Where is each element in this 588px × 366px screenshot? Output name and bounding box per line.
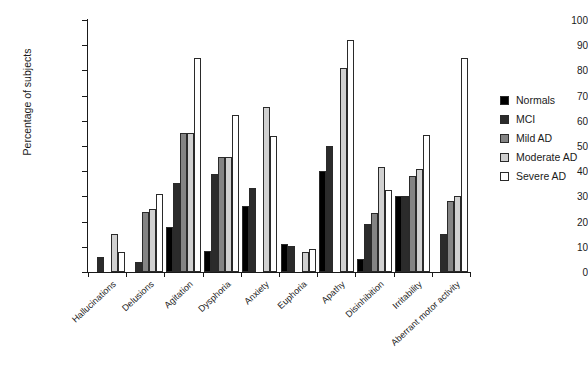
legend-swatch-icon [500,172,509,181]
x-axis-label-text: Hallucinations [70,279,118,325]
bar [194,58,201,272]
legend-swatch-icon [500,134,509,143]
bar [454,196,461,272]
x-axis-label-text: Anxiety [242,279,270,306]
legend-swatch-icon [500,115,509,124]
x-axis-label-text: Euphoria [276,279,309,311]
bar-group [432,20,470,272]
legend-label: Normals [516,95,555,106]
bar [232,115,239,273]
bar [371,213,378,272]
y-tick-label: 0 [522,268,588,278]
y-tick-label: 80 [522,66,588,76]
legend-item: Normals [500,92,577,108]
legend-label: Mild AD [516,133,552,144]
bar [340,68,347,272]
bar-group [164,20,202,272]
bar [385,190,392,272]
y-tick-label: 20 [522,218,588,228]
legend-label: Severe AD [516,171,566,182]
x-axis-label-text: Dysphoria [196,279,232,314]
bar [156,194,163,272]
bar-group [279,20,317,272]
y-tick-label: 100 [522,16,588,26]
legend-item: Moderate AD [500,149,577,165]
bar [270,136,277,272]
x-axis-label-text: Irritability [390,279,423,311]
legend-label: Moderate AD [516,152,577,163]
x-axis-label-text: Disinhibition [343,279,385,319]
bar [111,234,118,272]
x-axis-label-text: Apathy [320,279,347,305]
bar [187,133,194,272]
y-tick-label: 90 [522,41,588,51]
plot-area [88,20,470,272]
bar [180,133,187,272]
bar [347,40,354,272]
x-axis-label-text: Aberrant motor activity [389,279,462,348]
x-tick [88,272,89,277]
y-tick-label: 10 [522,243,588,253]
bar-group [317,20,355,272]
bar-group [203,20,241,272]
bar [97,257,104,272]
bar [378,167,385,272]
chart-figure: Percentage of subjects 01020304050607080… [0,0,588,366]
legend-swatch-icon [500,153,509,162]
legend-item: Mild AD [500,130,577,146]
bar-group [394,20,432,272]
bar [218,157,225,272]
y-tick-label: 30 [522,192,588,202]
bar [302,252,309,272]
legend-label: MCI [516,114,535,125]
bar [423,135,430,272]
legend-item: MCI [500,111,577,127]
bar [225,157,232,272]
bar [263,107,270,272]
y-axis-title: Percentage of subjects [21,37,33,167]
bar-group [355,20,393,272]
bar-group [241,20,279,272]
x-axis-label-text: Agitation [162,279,194,310]
x-axis-label-text: Delusions [120,279,156,313]
bar [326,146,333,272]
legend-item: Severe AD [500,168,577,184]
bar [461,58,468,272]
legend-swatch-icon [500,96,509,105]
bar-group [126,20,164,272]
bar-group [88,20,126,272]
chart-legend: NormalsMCIMild ADModerate ADSevere AD [500,92,577,187]
